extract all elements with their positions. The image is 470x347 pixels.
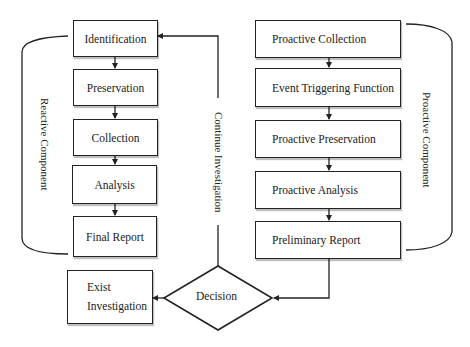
step-label: Proactive Analysis [272,184,358,196]
step-proactive-collection: Proactive Collection [255,20,401,58]
step-preliminary-report: Preliminary Report [255,221,401,259]
step-label: Event Triggering Function [272,82,394,94]
step-exist-investigation: Exist Investigation [67,270,153,324]
exit-line-2: Investigation [87,297,147,316]
step-label: Proactive Collection [272,33,366,45]
step-label: Identification [85,33,147,45]
proactive-component-label: Proactive Component [421,92,433,188]
continue-investigation-label: Continue Investigation [213,112,225,213]
step-analysis: Analysis [72,165,157,204]
flowchart-canvas: Identification Preservation Collection A… [0,0,470,347]
exit-line-1: Exist [87,278,111,297]
step-identification: Identification [73,20,158,57]
step-final-report: Final Report [73,216,157,257]
reactive-component-label: Reactive Component [39,98,51,191]
step-label: Analysis [94,179,134,191]
step-label: Final Report [86,231,144,243]
step-proactive-analysis: Proactive Analysis [255,171,401,209]
step-label: Proactive Preservation [272,133,376,145]
step-proactive-preservation: Proactive Preservation [255,120,401,158]
step-label: Preliminary Report [272,234,360,246]
step-collection: Collection [73,119,158,156]
decision-label: Decision [196,290,237,302]
step-event-triggering-function: Event Triggering Function [255,68,401,107]
step-preservation: Preservation [73,69,158,106]
step-label: Preservation [87,82,144,94]
step-label: Collection [92,132,140,144]
